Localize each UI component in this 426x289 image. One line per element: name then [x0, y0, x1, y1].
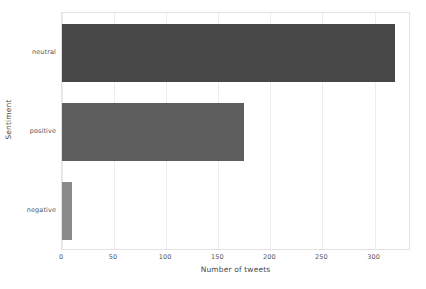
x-tick-100: 100: [159, 253, 172, 261]
x-tick-150: 150: [211, 253, 224, 261]
x-axis-title: Number of tweets: [61, 265, 410, 274]
y-axis-title: Sentiment: [4, 80, 13, 160]
x-tick-0: 0: [59, 253, 63, 261]
y-tick-positive: positive: [30, 127, 56, 135]
x-tick-300: 300: [367, 253, 380, 261]
y-tick-neutral: neutral: [32, 48, 56, 56]
x-tick-200: 200: [263, 253, 276, 261]
x-tick-250: 250: [315, 253, 328, 261]
x-tick-50: 50: [109, 253, 117, 261]
plot-area: [61, 12, 410, 250]
y-tick-negative: negative: [27, 206, 56, 214]
bar-neutral: [62, 24, 395, 82]
chart-figure: 050100150200250300 neutralpositivenegati…: [0, 0, 426, 289]
bar-positive: [62, 103, 244, 161]
bar-negative: [62, 182, 72, 240]
